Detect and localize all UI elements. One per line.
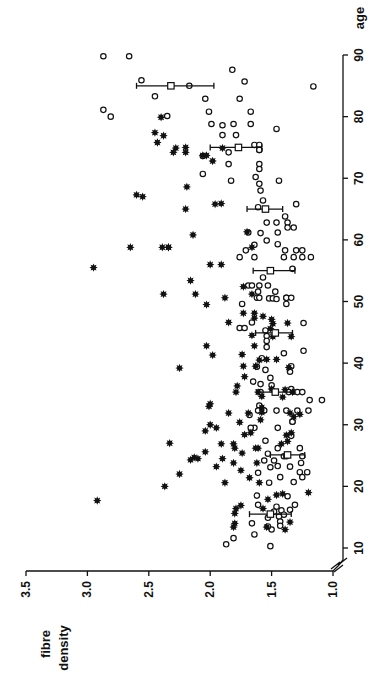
open-circle-point — [242, 325, 247, 330]
open-circle-point — [258, 381, 263, 386]
open-circle-point — [258, 188, 263, 193]
age-axis-title: age — [352, 7, 367, 29]
filled-star-point — [258, 408, 266, 416]
open-circle-point — [274, 296, 279, 301]
open-circle-point — [274, 408, 279, 413]
open-circle-point — [237, 254, 242, 259]
open-circle-point — [165, 113, 170, 118]
open-circle-point — [252, 254, 257, 259]
density-tick-label: 3.0 — [80, 581, 94, 598]
open-circle-point — [257, 166, 262, 171]
filled-star-point — [255, 478, 263, 486]
filled-star-point — [161, 482, 169, 490]
open-circle-point — [255, 502, 260, 507]
open-circle-point — [242, 79, 247, 84]
filled-star-point — [240, 372, 248, 380]
open-circle-point — [300, 254, 305, 259]
open-circle-point — [258, 230, 263, 235]
filled-star-point — [211, 200, 219, 208]
open-circle-point — [307, 397, 312, 402]
age-tick-label: 10 — [352, 541, 366, 555]
open-circle-point — [268, 543, 273, 548]
open-circle-point — [254, 493, 259, 498]
open-circle-point — [275, 425, 280, 430]
open-circle-point — [289, 295, 294, 300]
filled-star-point — [175, 470, 183, 478]
filled-star-point — [183, 183, 191, 191]
filled-star-point — [232, 388, 240, 396]
filled-star-point — [239, 309, 247, 317]
open-circle-point — [248, 109, 253, 114]
open-circle-point — [265, 283, 270, 288]
chart-canvas: 1.01.52.02.53.03.5102030405060708090agef… — [0, 0, 385, 683]
filled-star-point — [164, 243, 172, 251]
filled-star-point — [217, 260, 225, 268]
density-tick-label: 3.5 — [19, 581, 33, 598]
filled-star-point — [208, 351, 216, 359]
filled-star-point — [256, 416, 264, 424]
open-circle-point — [250, 379, 255, 384]
age-tick-label: 20 — [352, 479, 366, 493]
open-circle-point — [274, 126, 279, 131]
open-circle-point — [252, 532, 257, 537]
open-circle-point — [237, 96, 242, 101]
age-tick-label: 30 — [352, 418, 366, 432]
open-circle-point — [285, 225, 290, 230]
open-circle-point — [264, 238, 269, 243]
filled-star-point — [247, 429, 255, 437]
open-circle-point — [209, 121, 214, 126]
open-circle-point — [257, 283, 262, 288]
mean-square-marker — [272, 389, 278, 395]
open-circle-point — [239, 301, 244, 306]
age-tick-label: 50 — [352, 295, 366, 309]
filled-star-point — [191, 290, 199, 298]
open-circle-point — [275, 463, 280, 468]
filled-star-point — [277, 440, 285, 448]
open-circle-point — [282, 214, 287, 219]
filled-star-point — [169, 148, 177, 156]
filled-star-point — [244, 409, 252, 417]
filled-star-point — [165, 439, 173, 447]
open-circle-point — [276, 178, 281, 183]
filled-star-point — [126, 243, 134, 251]
mean-square-marker — [284, 452, 290, 458]
open-circle-point — [305, 470, 310, 475]
filled-star-point — [157, 113, 165, 121]
open-circle-point — [300, 389, 305, 394]
open-circle-point — [277, 523, 282, 528]
open-circle-point — [275, 241, 280, 246]
open-circle-point — [290, 419, 295, 424]
filled-star-point — [239, 283, 247, 291]
filled-star-point — [281, 525, 289, 533]
scatter-chart: 1.01.52.02.53.03.5102030405060708090agef… — [0, 0, 385, 683]
filled-star-point — [186, 456, 194, 464]
open-circle-point — [230, 67, 235, 72]
open-circle-point — [268, 465, 273, 470]
open-circle-point — [260, 198, 265, 203]
open-circle-point — [266, 480, 271, 485]
filled-star-point — [250, 314, 258, 322]
filled-star-point — [259, 312, 267, 320]
filled-star-point — [132, 191, 140, 199]
filled-star-point — [186, 276, 194, 284]
filled-star-point — [238, 449, 246, 457]
filled-star-point — [231, 444, 239, 452]
density-tick-label: 1.5 — [265, 581, 279, 598]
filled-star-point — [224, 409, 232, 417]
filled-star-point — [202, 151, 210, 159]
filled-star-point — [287, 429, 295, 437]
filled-star-point — [296, 410, 304, 418]
open-circle-point — [264, 344, 269, 349]
mean-square-marker — [168, 83, 174, 89]
filled-star-point — [159, 132, 167, 140]
age-tick-label: 80 — [352, 110, 366, 124]
filled-star-point — [243, 228, 251, 236]
age-tick-label: 40 — [352, 356, 366, 370]
filled-star-point — [287, 332, 295, 340]
filled-star-point — [253, 459, 261, 467]
filled-star-point — [93, 496, 101, 504]
mean-square-marker — [235, 144, 241, 150]
filled-star-point — [217, 199, 225, 207]
filled-star-point — [201, 427, 209, 435]
filled-star-point — [290, 413, 298, 421]
